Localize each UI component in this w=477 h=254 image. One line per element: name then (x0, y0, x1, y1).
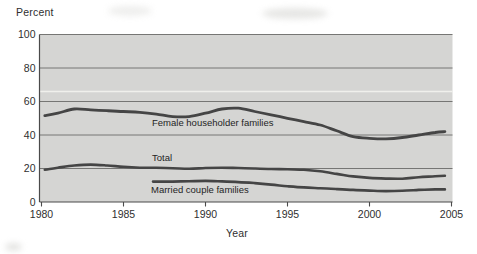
chart-figure: Percent 19801985199019952000200502040608… (0, 0, 477, 254)
y-tick-label: 80 (24, 62, 36, 74)
y-tick-label: 100 (18, 28, 36, 40)
x-tick-label: 1985 (112, 208, 136, 220)
x-tick-label: 1990 (194, 208, 218, 220)
y-tick-label: 20 (24, 162, 36, 174)
x-tick-label: 2005 (440, 208, 464, 220)
x-axis-title: Year (226, 227, 248, 239)
x-tick-label: 1995 (276, 208, 300, 220)
series-label-female-householder: Female householder families (152, 117, 273, 128)
x-tick-label: 2000 (358, 208, 382, 220)
y-tick-label: 0 (30, 196, 36, 208)
series-label-total: Total (152, 152, 172, 163)
series-label-married-couple: Married couple families (151, 184, 249, 195)
y-tick-label: 40 (24, 129, 36, 141)
y-tick-label: 60 (24, 95, 36, 107)
x-tick-label: 1980 (30, 208, 54, 220)
